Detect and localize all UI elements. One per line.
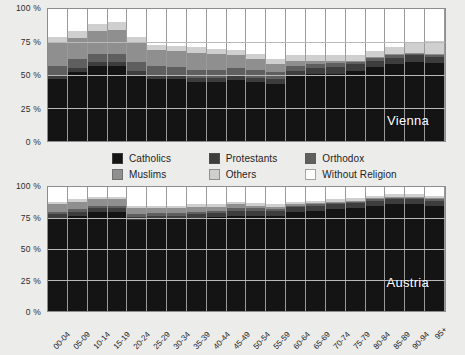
bar-05-09 [68,9,88,141]
bar-80-84 [366,187,386,311]
y-axis-austria: 0 %25 %50 %75 %100 % [0,186,44,312]
bar-segment-protestants [405,55,424,62]
bar-segment-without-religion [108,9,127,22]
bar-segment-catholics [366,67,385,141]
bar-segment-muslims [246,59,265,70]
legend-item-without-religion: Without Religion [305,169,402,180]
bar-65-69 [306,9,326,141]
bar-75-79 [346,187,366,311]
bar-segment-without-religion [346,187,365,198]
bar-15-19 [108,187,128,311]
bar-segment-orthodox [246,70,265,78]
bar-segment-others [127,37,146,44]
legend-label: Without Religion [322,169,396,180]
bar-40-44 [207,9,227,141]
bar-segment-without-religion [227,187,246,202]
bar-25-29 [147,187,167,311]
bar-segment-catholics [68,216,87,311]
legend-swatch [305,169,316,180]
bar-segment-orthodox [127,62,146,71]
bar-segment-without-religion [48,187,67,202]
bar-segment-orthodox [88,54,107,62]
bar-segment-without-religion [306,9,325,55]
legend-item-muslims: Muslims [112,169,209,180]
bar-segment-muslims [147,50,166,66]
legend-label: Protestants [226,153,278,164]
legend-item-orthodox: Orthodox [305,153,402,164]
bar-30-34 [167,187,187,311]
bar-00-04 [48,187,68,311]
x-tick-label: 20-24 [132,330,153,351]
bar-segment-catholics [127,75,146,141]
bar-segment-muslims [127,43,146,61]
bar-segment-without-religion [227,9,246,50]
bar-segment-others [68,31,87,38]
bar-segment-catholics [147,219,166,311]
x-tick-label: 45-49 [231,330,252,351]
bar-segment-catholics [207,82,226,141]
bar-45-49 [227,9,247,141]
legend-swatch [305,153,316,164]
x-tick-label: 95+ [433,325,449,341]
x-tick-label: 15-19 [112,330,133,351]
bar-segment-catholics [425,206,444,311]
bar-segment-without-religion [405,9,424,42]
bar-segment-without-religion [108,187,127,197]
y-tick-label: 50 % [21,70,41,80]
bar-segment-others [425,41,444,54]
bar-segment-without-religion [187,187,206,204]
bar-segment-without-religion [207,9,226,49]
bar-segment-catholics [68,72,87,141]
bar-25-29 [147,9,167,141]
bar-60-64 [286,187,306,311]
bar-20-24 [127,9,147,141]
y-tick-label: 0 % [26,137,41,147]
bar-30-34 [167,9,187,141]
bar-segment-without-religion [346,9,365,55]
bar-segment-without-religion [88,9,107,24]
legend-swatch [209,169,220,180]
bar-10-14 [88,9,108,141]
y-axis-vienna: 0 %25 %50 %75 %100 % [0,8,44,142]
x-axis-labels: 00-0405-0910-1415-1920-2425-2930-3435-39… [47,313,446,355]
bar-segment-orthodox [48,66,67,75]
legend-swatch [112,153,123,164]
bar-10-14 [88,187,108,311]
y-tick-label: 25 % [21,104,41,114]
bar-20-24 [127,187,147,311]
bar-segment-catholics [48,79,67,141]
bar-segment-muslims [266,64,285,72]
bar-segment-catholics [266,84,285,141]
x-tick-label: 40-44 [212,330,233,351]
bar-70-74 [326,187,346,311]
legend-item-catholics: Catholics [112,153,209,164]
bar-segment-without-religion [88,187,107,197]
bar-segment-catholics [405,204,424,311]
legend-item-others: Others [209,169,306,180]
bar-segment-without-religion [306,187,325,201]
chart-legend: CatholicsProtestantsOrthodoxMuslimsOther… [112,150,402,182]
bar-segment-without-religion [266,187,285,204]
x-tick-label: 85-89 [391,330,412,351]
bar-00-04 [48,9,68,141]
legend-label: Muslims [129,169,166,180]
legend-item-protestants: Protestants [209,153,306,164]
bar-segment-muslims [68,202,87,209]
bar-55-59 [266,187,286,311]
bar-segment-muslims [68,38,87,59]
bar-55-59 [266,9,286,141]
legend-label: Catholics [129,153,171,164]
bar-segment-without-religion [286,9,305,55]
bar-segment-catholics [167,219,186,311]
legend-swatch [209,153,220,164]
bar-segment-catholics [286,76,305,141]
bar-65-69 [306,187,326,311]
bar-segment-without-religion [68,9,87,31]
bar-segment-without-religion [366,187,385,196]
bar-40-44 [207,187,227,311]
bar-segment-muslims [227,55,246,68]
bar-85-89 [385,187,405,311]
bar-segment-catholics [246,82,265,141]
bar-segment-catholics [147,79,166,141]
bar-segment-catholics [385,64,404,141]
